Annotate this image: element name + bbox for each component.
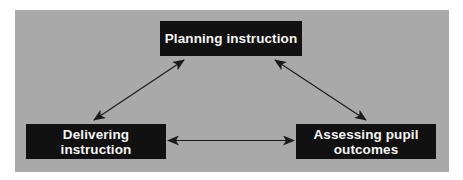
node-label: Planning instruction	[165, 31, 298, 46]
node-planning-instruction: Planning instruction	[160, 21, 302, 56]
node-label: Delivering instruction	[26, 127, 166, 157]
node-delivering-instruction: Delivering instruction	[26, 124, 166, 159]
node-label: Assessing pupil outcomes	[313, 127, 418, 157]
node-assessing-pupil-outcomes: Assessing pupil outcomes	[296, 124, 436, 159]
